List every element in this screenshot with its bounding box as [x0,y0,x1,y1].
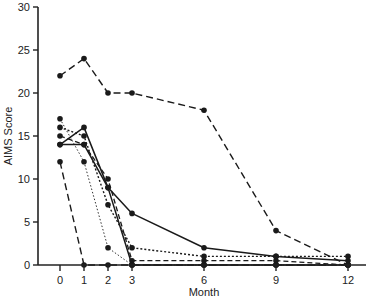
data-point [129,211,135,217]
y-tick-label: 10 [18,173,30,185]
x-tick-label: 2 [105,274,111,286]
series-1 [57,56,351,268]
data-point [129,90,135,96]
data-point [57,73,63,79]
x-tick-label: 12 [342,274,354,286]
data-point [105,202,111,208]
axes: 05101520253001236912 [18,1,366,286]
series-4 [57,125,351,260]
series-line [60,59,348,265]
x-tick-label: 1 [81,274,87,286]
data-point [57,133,63,139]
series-line [60,145,348,261]
data-point [81,133,87,139]
y-tick-label: 0 [24,259,30,271]
data-point [81,125,87,131]
x-tick-label: 0 [57,274,63,286]
x-tick-label: 6 [201,274,207,286]
data-point [57,142,63,148]
data-point [81,159,87,165]
data-point [129,245,135,251]
y-tick-label: 30 [18,1,30,13]
data-point [201,245,207,251]
series-layer [57,56,351,268]
data-point [345,254,351,260]
y-tick-label: 15 [18,130,30,142]
y-tick-label: 25 [18,44,30,56]
data-point [105,90,111,96]
y-axis-title: AIMS Score [2,107,14,166]
x-tick-label: 3 [129,274,135,286]
data-point [81,142,87,148]
data-point [105,245,111,251]
y-tick-label: 20 [18,87,30,99]
data-point [57,159,63,165]
data-point [105,176,111,182]
x-axis-title: Month [189,286,220,298]
series-line [60,127,348,256]
aims-score-line-chart: 05101520253001236912 Month AIMS Score [0,0,374,302]
data-point [57,125,63,131]
data-point [81,56,87,62]
data-point [273,228,279,234]
data-point [57,116,63,122]
y-tick-label: 5 [24,216,30,228]
data-point [201,107,207,113]
x-tick-label: 9 [273,274,279,286]
